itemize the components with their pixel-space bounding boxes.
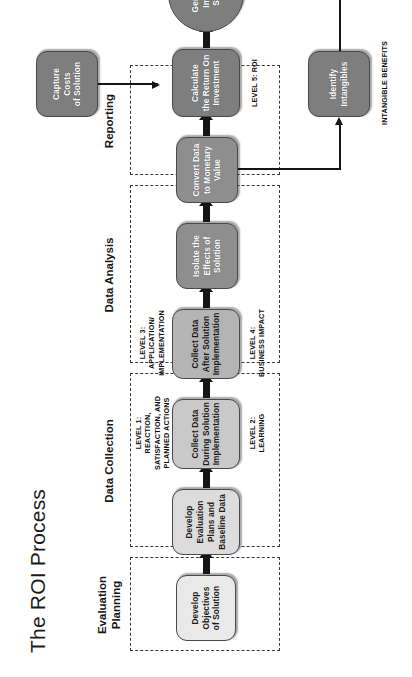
node-develop-objectives[interactable]: Develop Objectives of Solution: [176, 575, 236, 641]
arrow-shaft: [203, 470, 210, 488]
arrow-shaft: [203, 204, 210, 222]
node-convert-data[interactable]: Convert Data to Monetary Value: [176, 137, 238, 203]
level-note-level-5: LEVEL 5: ROI: [250, 41, 259, 125]
node-identify-intangibles[interactable]: Identify Intangibles: [308, 51, 370, 117]
connector-capture-costs-head: [152, 81, 160, 89]
node-collect-data-after[interactable]: Collect Data After Solution Implementati…: [172, 309, 240, 379]
arrow-shaft: [203, 118, 210, 136]
node-collect-data-during[interactable]: Collect Data During Solution Implementat…: [172, 399, 240, 469]
connector-convert-to-intangibles-head: [335, 117, 343, 125]
connector-convert-to-intangibles-v: [238, 168, 340, 170]
phase-label-evaluation-planning: Evaluation Planning: [96, 559, 123, 651]
arrow-shaft: [203, 380, 210, 398]
figure-canvas: The ROI Process Evaluation Planning Data…: [0, 0, 412, 677]
level-note-intangible-benefits: INTANGIBLE BENEFITS: [380, 29, 389, 137]
node-isolate-effects[interactable]: Isolate the Effects of Solution: [176, 223, 238, 289]
level-note-level-4: LEVEL 4: BUSINESS IMPACT: [248, 299, 267, 387]
node-calculate-roi[interactable]: Calculate the Return On Investment: [172, 49, 240, 117]
level-note-level-1: LEVEL 1: REACTION, SATISFACTION, AND PLA…: [134, 375, 171, 491]
connector-intangibles-to-study-h: [339, 0, 341, 51]
figure-title: The ROI Process: [26, 489, 50, 653]
phase-label-data-analysis: Data Analysis: [103, 187, 117, 363]
connector-convert-to-intangibles-h: [339, 124, 341, 170]
level-note-level-2: LEVEL 2: LEARNING: [248, 397, 267, 469]
node-develop-evaluation-plans[interactable]: Develop Evaluation Plans and Baseline Da…: [172, 489, 240, 555]
node-generate-impact-study[interactable]: Generate Impact Study: [168, 0, 244, 32]
connector-capture-costs-shaft: [98, 83, 158, 85]
level-note-level-3: LEVEL 3: APPLICATION/ IMPLEMENTATION: [138, 297, 166, 389]
arrow-shaft: [203, 30, 210, 48]
diagram-stage: The ROI Process Evaluation Planning Data…: [0, 0, 412, 677]
phase-label-data-collection: Data Collection: [103, 375, 117, 547]
arrow-shaft: [203, 556, 210, 574]
arrow-shaft: [203, 290, 210, 308]
node-capture-costs[interactable]: Capture Costs of Solution: [36, 51, 98, 117]
